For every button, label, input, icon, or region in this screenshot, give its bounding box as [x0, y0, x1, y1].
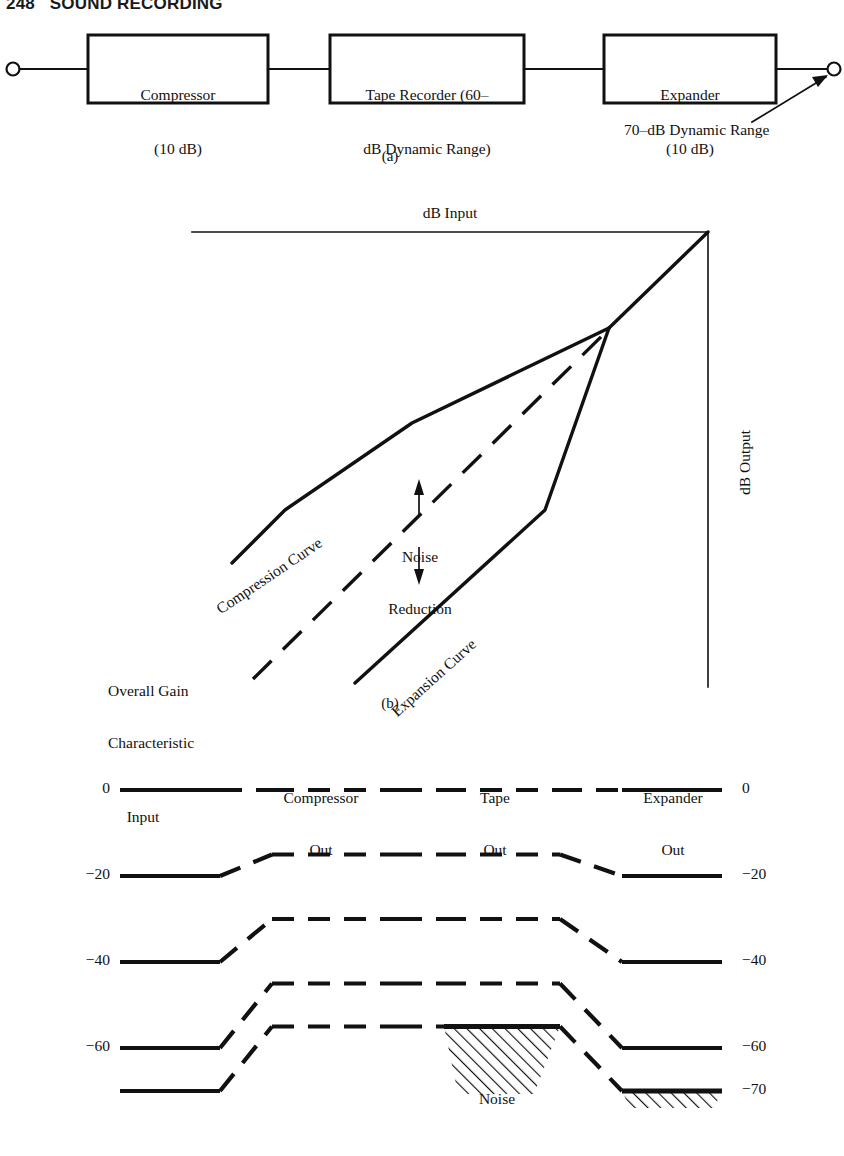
- figure-a-caption: (a): [360, 148, 420, 165]
- noise-reduction-line2: Reduction: [361, 600, 479, 617]
- output-terminal-icon: [828, 63, 841, 76]
- figure-a-block-diagram: Compressor (10 dB) Tape Recorder (60– dB…: [0, 0, 844, 190]
- column-header-expander-out-line1: Expander: [598, 789, 748, 806]
- column-header-compressor-out-line2: Out: [246, 841, 396, 858]
- block-tape-recorder-line1: Tape Recorder (60–: [330, 86, 524, 104]
- figure-b-y-axis-title: dB Output: [736, 430, 754, 495]
- curve-upper-common-segment: [609, 232, 708, 328]
- row-60-left-tick-label: −60: [62, 1037, 110, 1055]
- column-header-tape-out: Tape Out: [430, 754, 560, 893]
- noise-hatch-region-tape: [444, 1027, 560, 1095]
- figure-b-transfer-curves: dB Input dB Output Compression Curve Exp…: [0, 195, 844, 725]
- noise-reduction-arrow-up-head-icon: [414, 479, 424, 495]
- noise-hatch-region-expander: [622, 1091, 722, 1108]
- dynamic-range-annotation: 70–dB Dynamic Range: [624, 121, 770, 138]
- block-expander-line1: Expander: [604, 86, 776, 104]
- annotation-arrow-head-icon: [812, 75, 828, 87]
- column-header-input-line1: Input: [88, 808, 198, 825]
- figure-b-x-axis-title: dB Input: [350, 204, 550, 221]
- row-40-ramp-0: [220, 919, 272, 962]
- figure-c-level-diagram: Input Compressor Out Tape Out Expander O…: [0, 728, 844, 1156]
- row-70-right-tick-label: −70: [742, 1080, 766, 1098]
- input-terminal-icon: [7, 63, 20, 76]
- column-header-expander-out-line2: Out: [598, 841, 748, 858]
- figure-b-caption: (b): [360, 695, 420, 712]
- noise-reduction-label: Noise Reduction: [361, 513, 479, 652]
- row-40-ramp-2: [560, 919, 622, 962]
- block-compressor-line1: Compressor: [88, 86, 268, 104]
- block-expander-line2: (10 dB): [604, 140, 776, 158]
- noise-reduction-line1: Noise: [361, 548, 479, 565]
- column-header-tape-out-line2: Out: [430, 841, 560, 858]
- block-compressor-line2: (10 dB): [88, 140, 268, 158]
- row-20-right-tick-label: −20: [742, 865, 766, 883]
- row-60-right-tick-label: −60: [742, 1037, 766, 1055]
- row-60-ramp-0: [220, 984, 272, 1049]
- column-header-tape-out-line1: Tape: [430, 789, 560, 806]
- block-compressor-label: Compressor (10 dB): [88, 49, 268, 195]
- column-header-expander-out: Expander Out: [598, 754, 748, 893]
- column-header-compressor-out: Compressor Out: [246, 754, 396, 893]
- row-0-left-tick-label: 0: [62, 779, 110, 797]
- overall-gain-line1: Overall Gain: [108, 682, 194, 699]
- column-header-compressor-out-line1: Compressor: [246, 789, 396, 806]
- block-tape-recorder-label: Tape Recorder (60– dB Dynamic Range): [330, 49, 524, 195]
- row-40-right-tick-label: −40: [742, 951, 766, 969]
- row-20-left-tick-label: −20: [62, 865, 110, 883]
- row-40-left-tick-label: −40: [62, 951, 110, 969]
- noise-region-label: Noise: [442, 1090, 552, 1107]
- row-0-right-tick-label: 0: [742, 779, 750, 797]
